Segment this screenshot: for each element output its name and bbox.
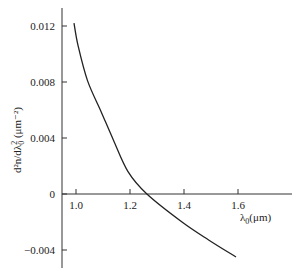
- y-tick-label: 0: [50, 188, 56, 200]
- y-tick-label: 0.008: [30, 76, 55, 88]
- x-tick-label: 1.0: [69, 199, 83, 211]
- y-ticks: −0.00400.0040.0080.012: [24, 20, 67, 256]
- y-tick-label: −0.004: [24, 244, 55, 256]
- data-curve: [74, 23, 236, 257]
- x-tick-label: 1.2: [123, 199, 137, 211]
- x-axis-label: λ0(μm): [240, 211, 271, 226]
- y-tick-label: 0.012: [30, 20, 55, 32]
- x-tick-label: 1.6: [231, 199, 245, 211]
- y-tick-label: 0.004: [30, 132, 55, 144]
- x-ticks: 1.01.21.41.6: [69, 189, 245, 211]
- chart: −0.00400.0040.0080.012 1.01.21.41.6 λ0(μ…: [0, 0, 306, 278]
- x-tick-label: 1.4: [177, 199, 191, 211]
- axes: [62, 8, 292, 268]
- y-axis-label: d²n/dλ20 (μm⁻²): [10, 107, 26, 173]
